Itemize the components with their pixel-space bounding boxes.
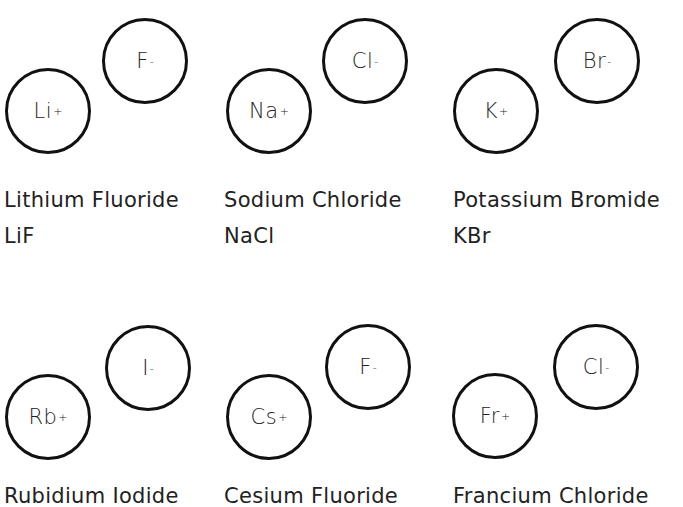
cation-charge: + [280,105,289,118]
anion-circle-f: F- [325,324,411,410]
compound-name: Sodium Chloride [224,188,402,212]
compound-formula: NaCl [224,224,274,248]
cation-charge: + [58,411,67,424]
cation-charge: + [499,105,508,118]
cation-charge: + [501,410,510,423]
anion-symbol: Br [583,49,606,73]
compound-name: Francium Chloride [453,484,649,507]
cation-symbol: Rb [28,405,57,429]
cation-symbol: Cs [251,405,278,429]
cation-circle-li: Li+ [5,68,91,154]
anion-charge: - [607,55,611,68]
cation-circle-fr: Fr+ [452,373,538,459]
anion-circle-i: I- [105,325,191,411]
cation-symbol: Fr [480,404,500,428]
anion-charge: - [605,361,609,374]
compound-formula: LiF [4,224,35,248]
compound-name: Rubidium Iodide [4,484,179,507]
anion-circle-cl: Cl- [553,324,639,410]
cation-charge: + [278,411,287,424]
cation-circle-cs: Cs+ [226,374,312,460]
anion-symbol: I [142,356,149,380]
anion-charge: - [150,362,154,375]
anion-charge: - [373,361,377,374]
anion-circle-br: Br- [554,18,640,104]
cation-symbol: K [484,99,498,123]
cation-circle-k: K+ [453,68,539,154]
anion-symbol: F [136,49,149,73]
cation-circle-rb: Rb+ [5,374,91,460]
cation-circle-na: Na+ [226,68,312,154]
compound-name: Lithium Fluoride [4,188,179,212]
anion-symbol: Cl [583,355,605,379]
anion-charge: - [150,55,154,68]
anion-charge: - [374,55,378,68]
compound-name: Cesium Fluoride [224,484,398,507]
compound-formula: KBr [453,224,491,248]
anion-circle-f: F- [102,18,188,104]
cation-symbol: Na [249,99,279,123]
anion-symbol: Cl [352,49,374,73]
cation-charge: + [53,105,62,118]
compound-name: Potassium Bromide [453,188,660,212]
anion-symbol: F [359,355,372,379]
cation-symbol: Li [34,99,53,123]
anion-circle-cl: Cl- [322,18,408,104]
